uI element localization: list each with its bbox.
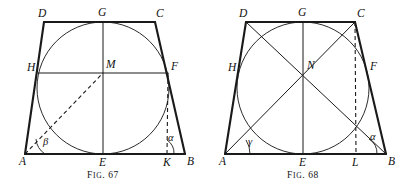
fig-68-label-A: A xyxy=(218,155,227,167)
fig-68-diagonal-DB xyxy=(246,22,386,154)
fig-68-side-DA xyxy=(225,22,246,154)
fig-68-diagonal-AC xyxy=(225,22,355,154)
fig-68-label-C: C xyxy=(357,7,365,19)
fig-68-label-H: H xyxy=(227,61,237,73)
fig-68-label-N: N xyxy=(306,59,316,71)
fig-68-label-B: B xyxy=(388,155,395,167)
fig-68-angle-gamma-label: γ xyxy=(248,136,253,147)
caption-67-smallcaps: IG xyxy=(93,171,102,180)
fig-68-altitude-CL xyxy=(355,22,356,154)
fig-68-label-D: D xyxy=(238,7,248,19)
fig-68-angle-alpha-label: α xyxy=(370,131,376,142)
fig-68-label-E: E xyxy=(298,156,306,168)
fig-68-label-G: G xyxy=(298,6,307,18)
caption-67-number: . 67 xyxy=(102,170,119,180)
figure-68-drawing: γαABCDEFGHLN xyxy=(0,0,402,191)
figure-68-caption: FIG. 68 xyxy=(258,170,348,180)
fig-68-label-F: F xyxy=(369,60,378,72)
caption-68-number: . 68 xyxy=(302,170,319,180)
caption-68-smallcaps: IG xyxy=(293,171,302,180)
figure-plate: βαABCDEFGHKM γαABCDEFGHLN FIG. 67 FIG. 6… xyxy=(0,0,402,191)
fig-68-label-L: L xyxy=(351,156,358,168)
figure-67-caption: FIG. 67 xyxy=(58,170,148,180)
